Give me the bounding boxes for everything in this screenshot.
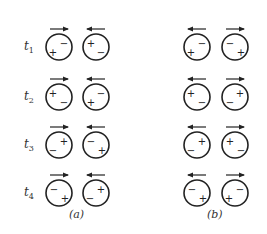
plus-charge: +: [199, 193, 207, 204]
dipole-cell: +−: [46, 77, 72, 111]
minus-charge: −: [226, 97, 234, 108]
plus-charge: +: [237, 47, 245, 58]
minus-charge: −: [198, 97, 206, 108]
time-label-t4: t4: [24, 185, 34, 201]
caption-b: (b): [207, 208, 223, 221]
minus-charge: −: [87, 136, 95, 147]
minus-charge: −: [97, 47, 105, 58]
dipole-cell: −+: [83, 77, 109, 111]
arrow-left-icon: [187, 77, 206, 82]
dipole-cell: −+: [184, 173, 210, 207]
minus-charge: −: [226, 38, 234, 49]
dipole-cell: −+: [46, 27, 72, 61]
plus-charge: +: [87, 97, 95, 108]
plus-charge: +: [49, 88, 57, 99]
diagram-canvas: −++−−+−++−−++−+−+−−++−+−−++−−+−+: [0, 0, 267, 234]
minus-charge: −: [188, 184, 196, 195]
plus-charge: +: [236, 88, 244, 99]
plus-charge: +: [198, 136, 206, 147]
dipole-cell: +−: [222, 77, 248, 111]
arrow-right-icon: [50, 125, 69, 130]
dipole-cell: −+: [184, 27, 210, 61]
plus-charge: +: [97, 184, 105, 195]
plus-charge: +: [226, 136, 234, 147]
arrow-right-icon: [226, 125, 245, 130]
arrow-left-icon: [86, 173, 105, 178]
minus-charge: −: [236, 184, 244, 195]
dipole-cell: −+: [46, 173, 72, 207]
minus-charge: −: [187, 145, 195, 156]
arrow-right-icon: [226, 173, 245, 178]
plus-charge: +: [98, 145, 106, 156]
dipole-cell: +−: [83, 27, 109, 61]
arrow-left-icon: [86, 77, 105, 82]
arrow-left-icon: [187, 27, 206, 32]
time-label-t3: t3: [24, 137, 34, 153]
minus-charge: −: [60, 97, 68, 108]
minus-charge: −: [50, 184, 58, 195]
caption-a: (a): [69, 208, 84, 221]
dipole-cell: +−: [184, 125, 210, 159]
plus-charge: +: [60, 136, 68, 147]
minus-charge: −: [237, 145, 245, 156]
dipole-cell: −+: [83, 125, 109, 159]
minus-charge: −: [86, 193, 94, 204]
plus-charge: +: [187, 88, 195, 99]
dipole-cell: −+: [222, 173, 248, 207]
minus-charge: −: [60, 38, 68, 49]
dipole-cell: −+: [222, 27, 248, 61]
plus-charge: +: [187, 47, 195, 58]
arrow-left-icon: [187, 125, 206, 130]
time-label-t2: t2: [24, 89, 34, 105]
arrow-right-icon: [50, 77, 69, 82]
arrow-left-icon: [86, 27, 105, 32]
minus-charge: −: [97, 88, 105, 99]
dipole-cell: +−: [83, 173, 109, 207]
minus-charge: −: [49, 145, 57, 156]
plus-charge: +: [225, 193, 233, 204]
arrow-right-icon: [50, 173, 69, 178]
arrow-left-icon: [86, 125, 105, 130]
dipole-cell: +−: [46, 125, 72, 159]
plus-charge: +: [87, 38, 95, 49]
arrow-right-icon: [50, 27, 69, 32]
arrow-left-icon: [187, 173, 206, 178]
plus-charge: +: [49, 47, 57, 58]
dipole-cell: +−: [222, 125, 248, 159]
plus-charge: +: [61, 193, 69, 204]
arrow-right-icon: [226, 77, 245, 82]
time-label-t1: t1: [24, 39, 34, 55]
dipole-cell: +−: [184, 77, 210, 111]
arrow-right-icon: [226, 27, 245, 32]
minus-charge: −: [198, 38, 206, 49]
